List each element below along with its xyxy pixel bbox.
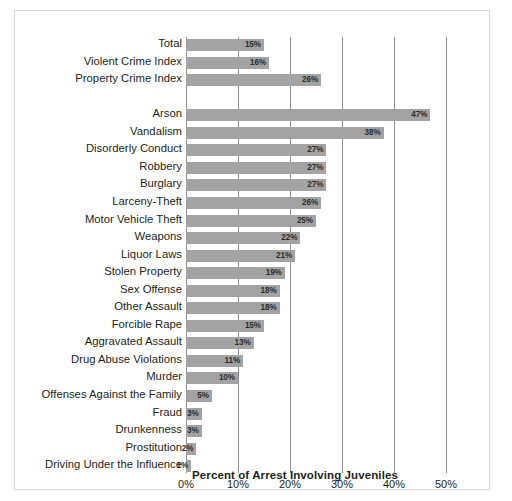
bar-row[interactable]: Drug Abuse Violations11% <box>15 355 491 367</box>
bar-chart-plot-area: Total15%Violent Crime Index16%Property C… <box>15 11 491 491</box>
category-label: Aggravated Assault <box>85 335 182 348</box>
x-axis-title: Percent of Arrest Involving Juveniles <box>115 469 475 481</box>
bar-value-label: 21% <box>275 251 292 261</box>
bar-value-label: 47% <box>410 110 427 120</box>
chart-frame: Total15%Violent Crime Index16%Property C… <box>14 10 490 490</box>
bar-row[interactable]: Larceny-Theft26% <box>15 197 491 209</box>
bar-row[interactable]: Forcible Rape15% <box>15 320 491 332</box>
bar-row[interactable]: Aggravated Assault13% <box>15 337 491 349</box>
bar-value-label: 13% <box>234 338 251 348</box>
bar-row[interactable]: Vandalism38% <box>15 127 491 139</box>
bar-value-label: 3% <box>182 409 199 419</box>
bar-row[interactable] <box>15 92 491 104</box>
bar-value-label: 16% <box>249 58 266 68</box>
category-label: Drunkenness <box>115 423 182 436</box>
bar-value-label: 5% <box>192 391 209 401</box>
category-label: Burglary <box>140 177 182 190</box>
bar-row[interactable]: Robbery27% <box>15 162 491 174</box>
bar-value-label: 18% <box>260 286 277 296</box>
category-label: Total <box>158 37 182 50</box>
category-label: Forcible Rape <box>112 318 182 331</box>
bar[interactable] <box>186 109 430 121</box>
bar-row[interactable]: Motor Vehicle Theft25% <box>15 215 491 227</box>
bar-row[interactable]: Fraud3% <box>15 408 491 420</box>
category-label: Motor Vehicle Theft <box>85 213 182 226</box>
bar-value-label: 19% <box>265 268 282 278</box>
bar-row[interactable]: Total15% <box>15 39 491 51</box>
category-label: Drug Abuse Violations <box>71 353 182 366</box>
bar-row[interactable]: Disorderly Conduct27% <box>15 144 491 156</box>
category-label: Violent Crime Index <box>84 55 182 68</box>
bar-value-label: 18% <box>260 303 277 313</box>
bar[interactable] <box>186 144 326 156</box>
bar-row[interactable]: Weapons22% <box>15 232 491 244</box>
category-label: Vandalism <box>130 125 182 138</box>
category-label: Sex Offense <box>120 283 182 296</box>
bar-value-label: 10% <box>218 373 235 383</box>
bar-value-label: 26% <box>301 198 318 208</box>
bar-value-label: 25% <box>296 216 313 226</box>
bar-value-label: 26% <box>301 75 318 85</box>
category-label: Larceny-Theft <box>112 195 182 208</box>
category-label: Prostitution <box>125 441 182 454</box>
bar-row[interactable]: Prostitution2% <box>15 443 491 455</box>
category-label: Liquor Laws <box>121 248 182 261</box>
category-label: Property Crime Index <box>75 72 182 85</box>
bar-row[interactable]: Murder10% <box>15 372 491 384</box>
bar-value-label: 3% <box>182 426 199 436</box>
bar-row[interactable]: Stolen Property19% <box>15 267 491 279</box>
bar-value-label: 15% <box>244 321 261 331</box>
category-label: Weapons <box>134 230 182 243</box>
bar-value-label: 27% <box>306 163 323 173</box>
bar-value-label: 27% <box>306 180 323 190</box>
bar-row[interactable]: Liquor Laws21% <box>15 250 491 262</box>
bar-row[interactable]: Other Assault18% <box>15 302 491 314</box>
bar[interactable] <box>186 179 326 191</box>
category-label: Disorderly Conduct <box>86 142 182 155</box>
category-label: Murder <box>146 370 182 383</box>
bar-row[interactable]: Drunkenness3% <box>15 425 491 437</box>
bar-row[interactable]: Arson47% <box>15 109 491 121</box>
bar-row[interactable]: Property Crime Index26% <box>15 74 491 86</box>
category-label: Arson <box>152 107 182 120</box>
category-label: Robbery <box>139 160 182 173</box>
bar-row[interactable]: Burglary27% <box>15 179 491 191</box>
bar-value-label: 22% <box>280 233 297 243</box>
bar[interactable] <box>186 162 326 174</box>
bar-value-label: 15% <box>244 40 261 50</box>
category-label: Stolen Property <box>104 265 182 278</box>
bar-value-label: 27% <box>306 145 323 155</box>
category-label: Fraud <box>152 406 182 419</box>
bar-row[interactable]: Sex Offense18% <box>15 285 491 297</box>
bar-value-label: 38% <box>364 128 381 138</box>
category-label: Other Assault <box>114 300 182 313</box>
category-label: Offenses Against the Family <box>42 388 182 401</box>
bar-row[interactable]: Offenses Against the Family5% <box>15 390 491 402</box>
bar-row[interactable]: Violent Crime Index16% <box>15 57 491 69</box>
bar-value-label: 11% <box>223 356 240 366</box>
bar-value-label: 2% <box>176 444 193 454</box>
bar[interactable] <box>186 127 384 139</box>
